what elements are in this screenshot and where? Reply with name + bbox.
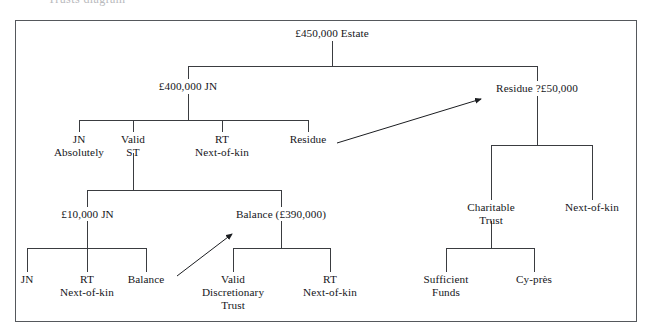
node-sufficient-funds: Sufficient Funds xyxy=(401,273,491,299)
node-charitable-trust: Charitable Trust xyxy=(446,201,536,227)
node-residue: Residue xyxy=(273,133,343,146)
node-next-of-kin-right: Next-of-kin xyxy=(547,201,637,214)
node-rt-next-of-kin-1: RT Next-of-kin xyxy=(172,133,272,159)
node-estate: £450,000 Estate xyxy=(272,27,392,40)
arrow-balance-to-balance390 xyxy=(177,234,232,276)
cross-reference-arrows xyxy=(177,99,481,276)
node-balance-leaf: Balance xyxy=(111,273,181,286)
node-residue-50000: Residue ?£50,000 xyxy=(482,82,592,95)
node-10000-jn: £10,000 JN xyxy=(40,208,135,221)
node-cy-pres: Cy-près xyxy=(499,273,569,286)
arrow-residue-to-residue50 xyxy=(337,99,481,143)
node-rt-next-of-kin-3: RT Next-of-kin xyxy=(280,273,380,299)
node-valid-st: Valid ST xyxy=(103,133,163,159)
node-400000-jn: £400,000 JN xyxy=(138,80,238,93)
node-balance-390000: Balance (£390,000) xyxy=(216,208,346,221)
node-valid-discretionary-trust: Valid Discretionary Trust xyxy=(176,273,290,311)
estate-distribution-diagram: Trusts diagram xyxy=(0,0,649,336)
